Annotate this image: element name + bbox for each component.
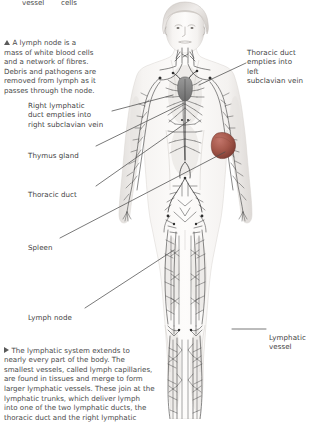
right-triangle-marker xyxy=(4,347,9,353)
human-body-figure xyxy=(116,0,254,419)
thymus-gland-organ xyxy=(178,77,193,101)
up-triangle-marker xyxy=(4,40,10,45)
label-thymus-gland-text: Thymus gland xyxy=(28,151,79,160)
spleen-organ xyxy=(211,132,235,158)
label-thoracic-duct-left-subclavian-text: Thoracic duct empties into left subclavi… xyxy=(247,48,303,86)
label-lymphatic-vessel: Lymphatic vessel xyxy=(269,323,309,352)
top-caption-word-vessel: vessel xyxy=(22,0,44,7)
label-lymph-node-text: Lymph node xyxy=(28,313,72,322)
label-lymphatic-vessel-text: Lymphatic vessel xyxy=(269,333,306,352)
label-spleen: Spleen xyxy=(28,233,108,252)
label-thoracic-duct: Thoracic duct xyxy=(28,180,108,199)
lymphatic-system-illustration xyxy=(116,0,254,419)
body-silhouette xyxy=(119,2,252,419)
lymph-node-caption-text: A lymph node is a mass of white blood ce… xyxy=(4,38,96,94)
label-thoracic-duct-text: Thoracic duct xyxy=(28,190,77,199)
label-right-lymphatic-duct-text: Right lymphatic duct empties into right … xyxy=(28,101,103,129)
label-thymus-gland: Thymus gland xyxy=(28,141,108,160)
top-caption-word-cells: cells xyxy=(61,0,77,7)
label-spleen-text: Spleen xyxy=(28,243,53,252)
label-thoracic-duct-left-subclavian: Thoracic duct empties into left subclavi… xyxy=(247,38,305,86)
lymph-node-caption: A lymph node is a mass of white blood ce… xyxy=(4,29,116,95)
label-right-lymphatic-duct: Right lymphatic duct empties into right … xyxy=(28,91,114,129)
label-lymph-node: Lymph node xyxy=(28,303,108,322)
